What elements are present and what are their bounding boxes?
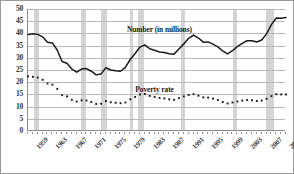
x-minor-tick [90,132,91,134]
poverty-rate-point [197,95,199,97]
y-tick-45: 45 [16,17,23,25]
poverty-rate-point [173,99,175,101]
poverty-chart: 05101520253035404550 Number (in millions… [0,0,294,174]
poverty-rate-point [227,103,229,105]
poverty-rate-point [105,100,107,102]
x-minor-tick [119,132,120,134]
x-minor-tick [270,132,271,134]
x-minor-tick [227,132,228,134]
x-tick-2011: 2011 [288,136,294,151]
x-minor-tick [212,132,213,134]
poverty-rate-point [61,94,63,96]
y-tick-40: 40 [16,30,23,38]
x-minor-tick [285,132,286,134]
x-minor-tick [154,132,155,134]
poverty-rate-point [100,103,102,105]
x-axis-tick-labels: 1959196319671971197519791983198719911995… [27,132,285,174]
x-minor-tick [100,132,101,134]
x-minor-tick [95,132,96,134]
poverty-rate-point [246,99,248,101]
x-minor-tick [207,132,208,134]
x-tick-1967: 1967 [74,136,89,151]
x-tick-mark [183,132,184,134]
x-minor-tick [76,132,77,134]
poverty-rate-point [120,102,122,104]
x-minor-tick [134,132,135,134]
poverty-rate-point [149,95,151,97]
x-minor-tick [51,132,52,134]
poverty-rate-point [285,94,287,96]
poverty-rate-point [207,97,209,99]
poverty-rate-point [56,88,58,90]
poverty-rate-series-label: Poverty rate [135,85,174,94]
x-minor-tick [188,132,189,134]
x-tick-mark [280,132,281,134]
poverty-rate-point [124,102,126,104]
y-tick-25: 25 [16,66,23,74]
poverty-rate-point [90,101,92,103]
y-tick-10: 10 [16,103,23,111]
x-tick-mark [66,132,67,134]
x-tick-1971: 1971 [93,136,108,151]
x-minor-tick [168,132,169,134]
x-minor-tick [56,132,57,134]
poverty-rate-point [271,95,273,97]
x-minor-tick [110,132,111,134]
poverty-rate-point [129,98,131,100]
poverty-rate-point [266,98,268,100]
poverty-rate-point [139,94,141,96]
x-tick-mark [46,132,47,134]
x-tick-1987: 1987 [171,136,186,151]
y-tick-35: 35 [16,42,23,50]
poverty-rate-point [212,98,214,100]
x-tick-1995: 1995 [210,136,225,151]
x-minor-tick [217,132,218,134]
poverty-rate-point [51,84,53,86]
x-tick-mark [241,132,242,134]
poverty-rate-point [232,102,234,104]
poverty-rate-point [275,93,277,95]
poverty-rate-point [202,96,204,98]
y-tick-50: 50 [16,5,23,13]
poverty-rate-point [81,99,83,101]
x-minor-tick [236,132,237,134]
x-tick-mark [222,132,223,134]
y-tick-5: 5 [19,115,23,123]
x-minor-tick [149,132,150,134]
poverty-rate-point [71,99,73,101]
x-minor-tick [193,132,194,134]
poverty-rate-point [163,97,165,99]
x-tick-2003: 2003 [249,136,264,151]
poverty-rate-point [37,77,39,79]
poverty-rate-point [280,94,282,96]
poverty-rate-point [178,97,180,99]
poverty-rate-point [66,95,68,97]
x-minor-tick [256,132,257,134]
x-minor-tick [81,132,82,134]
x-minor-tick [71,132,72,134]
x-minor-tick [251,132,252,134]
x-minor-tick [129,132,130,134]
x-tick-1959: 1959 [35,136,50,151]
x-minor-tick [158,132,159,134]
poverty-rate-point [222,101,224,103]
poverty-rate-point [256,100,258,102]
poverty-rate-point [76,101,78,103]
x-minor-tick [246,132,247,134]
poverty-rate-point [251,99,253,101]
x-minor-tick [32,132,33,134]
x-tick-mark [124,132,125,134]
poverty-rate-point [32,76,34,78]
x-minor-tick [42,132,43,134]
poverty-rate-point [236,101,238,103]
poverty-rate-point [193,93,195,95]
poverty-rate-point [42,79,44,81]
poverty-rate-point [95,103,97,105]
poverty-rate-point [134,96,136,98]
y-tick-0: 0 [19,127,23,135]
poverty-rate-point [241,100,243,102]
poverty-rate-point [47,83,49,85]
x-tick-1999: 1999 [230,136,245,151]
x-minor-tick [61,132,62,134]
x-tick-1991: 1991 [191,136,206,151]
